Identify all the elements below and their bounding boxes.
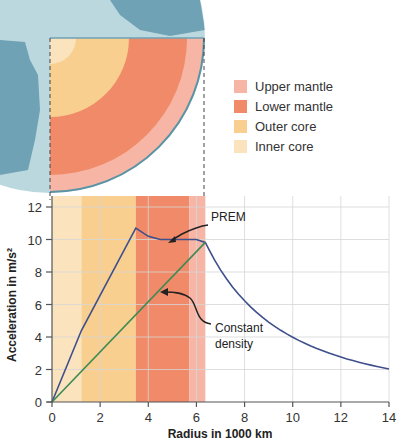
y-tick-label: 10 xyxy=(28,233,42,248)
y-tick-label: 6 xyxy=(35,298,42,313)
x-tick-label: 2 xyxy=(97,410,104,425)
legend-item-lower-mantle: Lower mantle xyxy=(234,96,333,116)
outer-core-swatch xyxy=(234,120,247,133)
y-tick-label: 0 xyxy=(35,395,42,410)
band-lower-mantle xyxy=(136,196,189,402)
x-tick-label: 4 xyxy=(145,410,152,425)
legend-item-outer-core: Outer core xyxy=(234,116,333,136)
x-tick-label: 8 xyxy=(241,410,248,425)
band-inner-core xyxy=(52,196,81,402)
x-tick-label: 12 xyxy=(334,410,348,425)
x-tick-label: 0 xyxy=(48,410,55,425)
y-axis-label: Acceleration in m/s² xyxy=(5,248,19,362)
band-outer-core xyxy=(81,196,135,402)
legend-item-inner-core: Inner core xyxy=(234,136,333,156)
constant-density-label-2: density xyxy=(215,337,253,351)
legend-item-upper-mantle: Upper mantle xyxy=(234,76,333,96)
inner-core-swatch xyxy=(234,140,247,153)
y-tick-label: 4 xyxy=(35,330,42,345)
x-tick-label: 10 xyxy=(285,410,299,425)
y-tick-label: 2 xyxy=(35,363,42,378)
y-tick-label: 12 xyxy=(28,200,42,215)
constant-density-label-1: Constant xyxy=(215,321,264,335)
legend: Upper mantle Lower mantle Outer core Inn… xyxy=(234,76,333,156)
figure: 02468101214024681012 PREM Constant densi… xyxy=(0,0,401,446)
layer-bands xyxy=(52,196,205,402)
y-tick-label: 8 xyxy=(35,265,42,280)
x-tick-label: 6 xyxy=(193,410,200,425)
x-axis-label: Radius in 1000 km xyxy=(168,427,273,441)
upper-mantle-swatch xyxy=(234,80,247,93)
lower-mantle-swatch xyxy=(234,100,247,113)
x-tick-label: 14 xyxy=(382,410,396,425)
prem-label: PREM xyxy=(211,210,246,224)
